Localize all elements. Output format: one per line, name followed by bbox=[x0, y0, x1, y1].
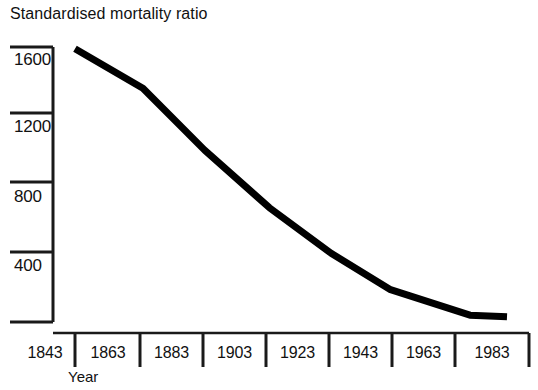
x-tick-label-1863: 1863 bbox=[79, 344, 137, 362]
series-line-mortality-ratio bbox=[75, 49, 507, 317]
y-tick-label-400: 400 bbox=[14, 256, 42, 276]
y-tick-label-1600: 1600 bbox=[14, 50, 51, 70]
x-tick-label-1983: 1983 bbox=[458, 344, 526, 362]
y-tick-label-1200: 1200 bbox=[14, 117, 51, 137]
x-tick-label-1903: 1903 bbox=[206, 344, 263, 362]
x-tick-label-1963: 1963 bbox=[395, 344, 452, 362]
chart-container: Standardised mortality ratio 1600 1200 8… bbox=[0, 0, 538, 390]
x-tick-label-1923: 1923 bbox=[269, 344, 326, 362]
x-axis-title: Year bbox=[68, 368, 98, 385]
x-tick-label-1843: 1843 bbox=[17, 344, 73, 362]
y-tick-label-800: 800 bbox=[14, 187, 42, 207]
x-tick-label-1943: 1943 bbox=[332, 344, 389, 362]
x-tick-label-1883: 1883 bbox=[143, 344, 200, 362]
chart-plot-area bbox=[0, 0, 538, 390]
